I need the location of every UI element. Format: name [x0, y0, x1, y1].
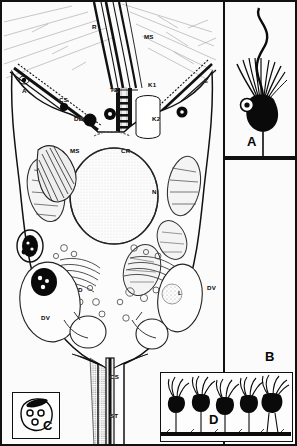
label-k1: K1 — [148, 82, 156, 88]
label-cs-upper: CS — [59, 97, 68, 103]
flagellum-shaft — [94, 2, 142, 88]
collar-cell — [261, 375, 289, 433]
label-r: R — [92, 24, 97, 30]
panel-d-inset: D — [160, 372, 293, 442]
lateral-vesicle — [241, 99, 254, 112]
label-e: E — [204, 78, 208, 84]
panel-a-drawing — [225, 2, 297, 160]
label-l: L — [178, 290, 182, 296]
label-st: ST — [110, 413, 118, 419]
substrate-line-d — [161, 432, 291, 436]
collar-cell — [216, 379, 239, 433]
label-a-left: A — [22, 88, 27, 94]
label-ms-left: MS — [70, 148, 80, 154]
label-db: DB — [74, 116, 83, 122]
label-ms-top: MS — [144, 34, 154, 40]
panel-d-label: D — [209, 413, 219, 426]
label-n: N — [152, 189, 157, 195]
label-tz: TZ — [110, 87, 118, 93]
label-dv-right: DV — [207, 285, 216, 291]
collar-cell — [240, 377, 263, 433]
panel-c-label: C — [43, 419, 53, 432]
panel-d-drawing — [161, 373, 291, 440]
label-d-small: D — [78, 287, 83, 293]
collar-cell-row — [168, 375, 289, 433]
collar-cell — [168, 377, 189, 433]
label-cs-lower: CS — [110, 374, 119, 380]
label-cr: CR — [121, 148, 130, 154]
figure-container: R MS A CS TZ K1 E DB K2 MS CR N D L DV D… — [0, 0, 297, 446]
stalk — [72, 354, 148, 446]
label-dv-left: DV — [41, 315, 50, 321]
panel-a-label: A — [247, 135, 257, 148]
panel-c-inset: C — [12, 392, 60, 439]
panel-b-label: B — [265, 350, 275, 363]
label-k2: K2 — [152, 116, 160, 122]
vacuole-inclusion — [31, 268, 57, 296]
panel-a-choanoflagellate: A — [225, 2, 297, 160]
